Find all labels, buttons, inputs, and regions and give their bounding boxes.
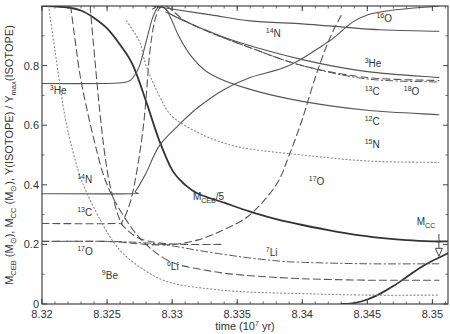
curve-7li — [42, 241, 439, 264]
y-tick-label: 0.4 — [24, 179, 39, 191]
curve-label-13c: 13C — [77, 206, 92, 218]
curve-label-16o: 16O — [376, 12, 392, 24]
y-axis-ticks: 00.20.40.60.8 — [24, 36, 448, 310]
curve-label-3he: 3He — [365, 57, 382, 69]
curve-label-m-cc: MCC — [417, 216, 435, 229]
curve-label-7li: 7Li — [266, 246, 278, 258]
plot-frame — [42, 6, 448, 304]
curve-label-18o: 18O — [404, 85, 420, 97]
curve-9be — [49, 6, 439, 295]
x-tick-label: 8.35 — [422, 308, 443, 320]
x-tick-label: 8.335 — [223, 308, 251, 320]
y-tick-label: 0.2 — [24, 238, 39, 250]
curve-15n — [127, 21, 439, 163]
curve-12c — [153, 6, 439, 115]
curve-m-ceb-5 — [42, 6, 448, 241]
y-tick-label: 0 — [33, 298, 39, 310]
curve-label-13c: 13C — [365, 85, 380, 97]
y-axis-title: MCEB (M⊙), MCC (M⊙), Y(ISOTOPE) / Ymax(I… — [3, 25, 18, 285]
curve-14n — [42, 6, 439, 194]
curve-label-12c: 12C — [365, 115, 380, 127]
curve-label-14n: 14N — [266, 27, 281, 39]
y-tick-label: 0.6 — [24, 119, 39, 131]
chart-curves — [42, 6, 448, 304]
curve-label-17o: 17O — [77, 245, 93, 257]
x-axis-title: time (107 yr) — [215, 320, 275, 332]
curve-extra-dashed-left — [90, 6, 224, 244]
mcc-arrow — [435, 234, 442, 256]
y-tick-label: 0.8 — [24, 60, 39, 72]
curve-13c — [42, 6, 439, 224]
curve-label-15n: 15N — [365, 138, 380, 150]
curve-label-3he: 3He — [50, 84, 67, 96]
curve-label-17o: 17O — [309, 175, 325, 187]
chart: 3He14N13C17O9Be6Li7LiMCEB/517O14N16O3He1… — [0, 0, 450, 334]
curve-labels: 3He14N13C17O9Be6Li7LiMCEB/517O14N16O3He1… — [50, 12, 435, 280]
curve-label-14n: 14N — [77, 173, 92, 185]
arrow-head-icon — [435, 248, 442, 256]
x-tick-label: 8.34 — [292, 308, 313, 320]
x-axis-ticks: 8.328.3258.338.3358.348.3458.35 — [31, 6, 445, 320]
curve-m-cc — [341, 253, 448, 304]
curve-label-6li: 6Li — [167, 260, 179, 272]
x-tick-label: 8.345 — [354, 308, 382, 320]
curve-label-9be: 9Be — [102, 269, 119, 281]
x-tick-label: 8.325 — [93, 308, 121, 320]
x-tick-label: 8.33 — [161, 308, 182, 320]
